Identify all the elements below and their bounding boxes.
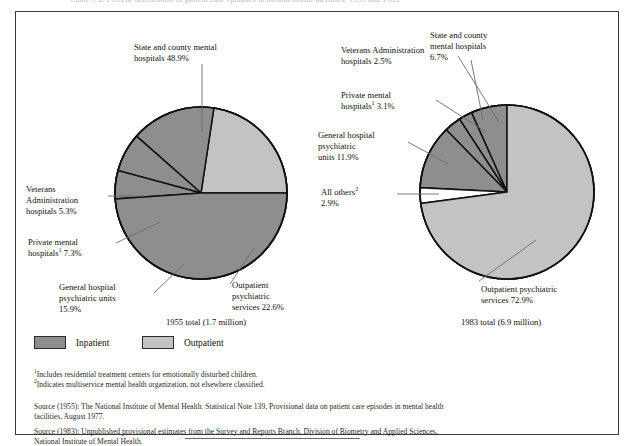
label-line: services 72.9% (481, 295, 611, 306)
label-line: 2.9% (321, 198, 397, 209)
caption-1983: 1983 total (6.9 million) (431, 317, 571, 327)
legend-swatch-outpatient (142, 336, 174, 349)
label-text: All others (321, 187, 355, 197)
label-1983-veterans-administration-hospitals: Veterans Administration hospitals 2.5% (341, 45, 459, 67)
label-text: 7.3% (62, 248, 82, 258)
label-line: State and county mental (134, 42, 244, 53)
label-line: Private mental (341, 90, 436, 101)
label-line: All others2 (321, 187, 397, 198)
caption-1955: 1955 total (1.7 million) (136, 317, 276, 327)
label-line: hospitals1 7.3% (28, 248, 116, 259)
source-line: facilities, August 1977. (34, 412, 612, 422)
legend-item-outpatient: Outpatient (142, 336, 224, 349)
bottom-cut-rule (15, 438, 619, 442)
label-line: psychiatric (232, 291, 312, 302)
label-1955-state-county-mental-hospitals: State and county mental hospitals 48.9% (134, 42, 244, 64)
footnote-text: Indicates multiservice mental health org… (37, 380, 265, 389)
figure-frame: State and county mental hospitals 48.9% … (15, 11, 619, 435)
pie-1983-slices (420, 105, 594, 279)
label-1983-general-hospital-psychiatric-units: General hospital psychiatric units 11.9% (318, 130, 408, 162)
footnote-marker: 2 (355, 185, 358, 192)
source-line: Source (1955): The National Institute of… (34, 402, 612, 412)
label-1955-general-hospital-psychiatric-units: General hospital psychiatric units 15.9% (59, 282, 154, 314)
charts-area: State and county mental hospitals 48.9% … (16, 12, 620, 322)
label-text: 3.1% (375, 101, 395, 111)
label-line: General hospital (59, 282, 154, 293)
label-line: 15.9% (59, 304, 154, 315)
legend-item-inpatient: Inpatient (34, 336, 109, 349)
footnote-2: 2Indicates multiservice mental health or… (34, 380, 606, 390)
legend-label-outpatient: Outpatient (184, 338, 224, 348)
label-line: units 11.9% (318, 152, 408, 163)
label-text: hospitals (28, 248, 59, 258)
label-1983-all-others: All others2 2.9% (321, 187, 397, 209)
figure-page: Chart 5-2. Percent distribution of patie… (0, 0, 632, 446)
rule-segment (185, 438, 360, 439)
legend-label-inpatient: Inpatient (76, 338, 109, 348)
footnote-1: 1Includes residential treatment centers … (34, 370, 606, 380)
label-1983-outpatient-psychiatric-services: Outpatient psychiatric services 72.9% (481, 284, 611, 306)
label-line: Outpatient (232, 280, 312, 291)
label-text: hospitals (341, 101, 372, 111)
label-line: General hospital (318, 130, 408, 141)
label-line: hospitals 48.9% (134, 53, 244, 64)
legend-swatch-inpatient (34, 336, 66, 349)
footnotes: 1Includes residential treatment centers … (34, 370, 606, 389)
label-line: psychiatric (318, 141, 408, 152)
label-1983-private-mental-hospitals: Private mental hospitals1 3.1% (341, 90, 436, 112)
label-line: Veterans (26, 184, 108, 195)
label-line: hospitals1 3.1% (341, 101, 436, 112)
label-line: hospitals 5.3% (26, 206, 108, 217)
label-line: hospitals 2.5% (341, 56, 459, 67)
label-line: Outpatient psychiatric (481, 284, 611, 295)
pie-chart-1983 (16, 12, 620, 322)
top-cut-label: Chart 5-2. Percent distribution of patie… (70, 0, 399, 4)
label-line: State and county (430, 30, 528, 41)
label-1955-outpatient-psychiatric-services: Outpatient psychiatric services 22.6% (232, 280, 312, 312)
source-line: Source (1983): Unpublished provisional e… (34, 427, 612, 437)
label-line: Private mental (28, 237, 116, 248)
label-1955-private-mental-hospitals: Private mental hospitals1 7.3% (28, 237, 116, 259)
footnote-text: Includes residential treatment centers f… (37, 370, 258, 379)
label-line: Administration (26, 195, 108, 206)
label-line: services 22.6% (232, 302, 312, 313)
source-1983: Source (1983): Unpublished provisional e… (34, 427, 612, 446)
label-line: Veterans Administration (341, 45, 459, 56)
source-1955: Source (1955): The National Institute of… (34, 402, 612, 421)
top-cut-text: Chart 5-2. Percent distribution of patie… (0, 0, 632, 9)
label-1955-veterans-administration-hospitals: Veterans Administration hospitals 5.3% (26, 184, 108, 216)
label-line: psychiatric units (59, 293, 154, 304)
chart-legend: Inpatient Outpatient (16, 336, 620, 360)
